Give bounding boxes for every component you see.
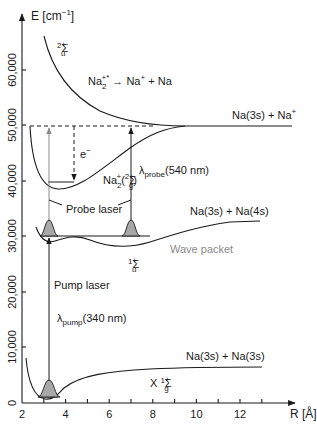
- ground-state-curve: [26, 358, 262, 399]
- x-tick-6: 6: [106, 408, 112, 420]
- y-tick-0: 0: [6, 400, 18, 406]
- probe-laser-label: Probe laser: [66, 203, 123, 215]
- ion-state-label: Na2+(2Σ+g): [103, 172, 137, 190]
- ground-state-label: X 1Σ+g: [150, 375, 172, 393]
- y-axis: 0 10,000 20,000 30,000 40,000 50,000 60,…: [6, 8, 74, 406]
- x-tick-8: 8: [150, 408, 156, 420]
- x-tick-4: 4: [63, 408, 69, 420]
- y-tick-60000: 60,000: [6, 53, 18, 87]
- x-tick-12: 12: [234, 408, 246, 420]
- y-tick-30000: 30,000: [6, 219, 18, 253]
- dissociation-label: Na2+* → Na+ + Na: [88, 73, 173, 91]
- wave-packet-label: Wave packet: [170, 243, 233, 255]
- wave-packet-left: [40, 220, 58, 236]
- ground-asymptote-label: Na(3s) + Na(3s): [186, 350, 265, 362]
- probe-bracket-left: [49, 200, 62, 205]
- wave-packet-right: [122, 220, 140, 236]
- pump-wavelength-label: λpump(340 nm): [57, 312, 127, 327]
- excited-state-label: 1Σ+u: [128, 256, 139, 274]
- ion-asymptote-label: Na(3s) + Na+: [232, 107, 297, 121]
- y-tick-20000: 20,000: [6, 275, 18, 309]
- x-tick-2: 2: [19, 408, 25, 420]
- y-tick-40000: 40,000: [6, 164, 18, 198]
- electron-label: e−: [80, 146, 91, 160]
- wave-packet-ground: [38, 380, 60, 397]
- x-axis-label: R [Å]: [290, 406, 317, 421]
- x-axis: 2 4 6 8 10 12 R [Å]: [19, 399, 317, 421]
- repulsive-state-label: 2Σ+u: [57, 40, 68, 58]
- y-axis-label: E [cm−1]: [31, 8, 74, 23]
- y-tick-10000: 10,000: [6, 330, 18, 364]
- probe-wavelength-label: λprobe(540 nm): [139, 164, 209, 179]
- y-tick-50000: 50,000: [6, 108, 18, 142]
- potential-energy-diagram: 0 10,000 20,000 30,000 40,000 50,000 60,…: [0, 0, 317, 425]
- pump-laser-label: Pump laser: [54, 279, 110, 291]
- x-tick-10: 10: [190, 408, 202, 420]
- excited-asymptote-label: Na(3s) + Na(4s): [190, 205, 269, 217]
